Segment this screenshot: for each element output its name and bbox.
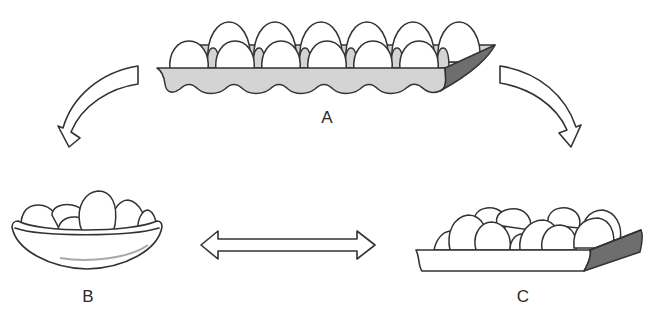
- double-arrow-b-to-c: [201, 231, 375, 259]
- egg-arrangement-diagram: A B C: [0, 0, 652, 327]
- egg-tray-c: [416, 208, 642, 271]
- curved-arrow-a-to-c: [500, 66, 581, 147]
- tray-front-wall: [416, 250, 591, 271]
- carton-front-wall: [157, 68, 446, 94]
- label-b: B: [82, 288, 93, 305]
- egg-carton-a: [157, 22, 495, 94]
- egg-bowl-b: [12, 191, 162, 269]
- label-c: C: [517, 288, 529, 305]
- curved-arrow-a-to-b: [58, 66, 138, 147]
- label-a: A: [321, 109, 332, 126]
